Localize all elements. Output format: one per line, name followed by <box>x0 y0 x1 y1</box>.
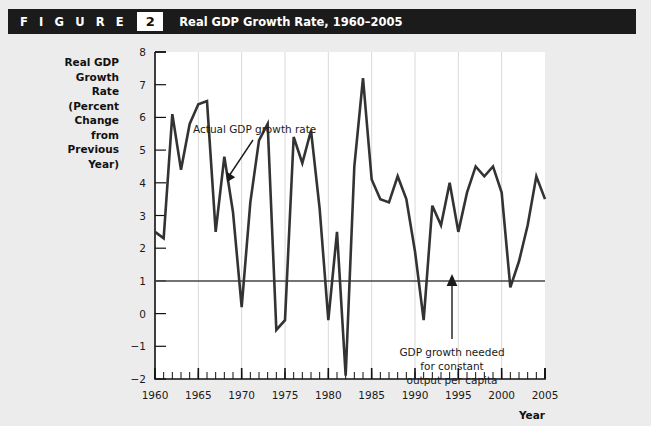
x-tick-label: 1985 <box>358 389 385 401</box>
y-tick-label: 8 <box>139 46 146 58</box>
y-tick-label: 1 <box>139 275 146 287</box>
x-tick-label: 1975 <box>272 389 299 401</box>
x-tick-label: 2005 <box>532 389 559 401</box>
y-axis-title-line: Previous <box>68 143 119 155</box>
x-tick-label: 1980 <box>315 389 342 401</box>
x-tick-label: 1965 <box>185 389 212 401</box>
figure-word-label: F I G U R E <box>8 9 137 34</box>
y-axis-title-line: Rate <box>92 85 119 97</box>
y-tick-label: 5 <box>139 144 146 156</box>
figure-title: Real GDP Growth Rate, 1960–2005 <box>179 9 402 34</box>
x-tick-label: 1995 <box>445 389 472 401</box>
y-tick-label: 6 <box>139 111 146 123</box>
figure-container: F I G U R E 2 Real GDP Growth Rate, 1960… <box>0 0 651 426</box>
y-tick-label: 0 <box>139 308 146 320</box>
y-tick-label: 2 <box>139 242 146 254</box>
x-tick-label: 1970 <box>228 389 255 401</box>
y-tick-label: 4 <box>139 177 146 189</box>
y-tick-label: −2 <box>131 373 146 385</box>
x-axis-tick-labels: 1960196519701975198019851990199520002005 <box>142 389 559 401</box>
annotation-constant-output-line: for constant <box>420 360 483 372</box>
y-tick-label: 7 <box>139 79 146 91</box>
y-axis-title-line: Growth <box>76 71 119 83</box>
annotation-constant-output-line: output per capita <box>406 374 497 386</box>
x-tick-label: 2000 <box>488 389 515 401</box>
y-axis-title-line: Year) <box>87 158 119 170</box>
x-tick-label: 1960 <box>142 389 169 401</box>
figure-header-bar: F I G U R E 2 Real GDP Growth Rate, 1960… <box>8 9 636 34</box>
annotation-actual-gdp-growth-rate-label: Actual GDP growth rate <box>193 123 316 135</box>
chart-canvas: −2−1012345678 19601965197019751980198519… <box>0 34 651 426</box>
y-axis-tick-labels: −2−1012345678 <box>131 46 147 385</box>
y-tick-label: −1 <box>131 340 146 352</box>
x-axis-title: Year <box>518 409 546 421</box>
y-axis-title-line: Change <box>75 114 119 126</box>
annotation-constant-output-line: GDP growth needed <box>399 346 504 358</box>
y-axis-title-line: Real GDP <box>64 56 119 68</box>
gdp-growth-line-chart: −2−1012345678 19601965197019751980198519… <box>0 34 651 426</box>
y-tick-label: 3 <box>139 210 146 222</box>
y-axis-title-line: (Percent <box>68 100 119 112</box>
x-tick-label: 1990 <box>402 389 429 401</box>
y-axis-title-line: from <box>91 129 119 141</box>
figure-number-badge: 2 <box>137 12 163 31</box>
y-axis-title: Real GDPGrowthRate(PercentChangefromPrev… <box>64 56 119 170</box>
